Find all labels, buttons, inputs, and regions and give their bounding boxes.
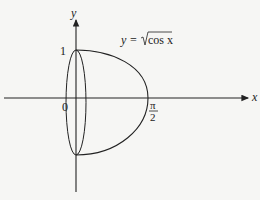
y-axis-label: y (70, 6, 77, 20)
revolved-curve (76, 50, 148, 155)
svg-text:2: 2 (150, 111, 156, 123)
origin-label: 0 (62, 100, 68, 114)
curve-equation-label: y = cos x (120, 32, 173, 47)
y-tick-label-1: 1 (60, 44, 66, 58)
svg-text:π: π (150, 99, 156, 111)
svg-text:cos x: cos x (148, 33, 173, 47)
svg-text:y =: y = (120, 33, 137, 47)
x-axis-label: x (251, 90, 258, 104)
diagram-canvas: y x 1 0 π 2 y = cos x (0, 0, 260, 200)
x-tick-label-pi-over-2: π 2 (149, 99, 158, 123)
